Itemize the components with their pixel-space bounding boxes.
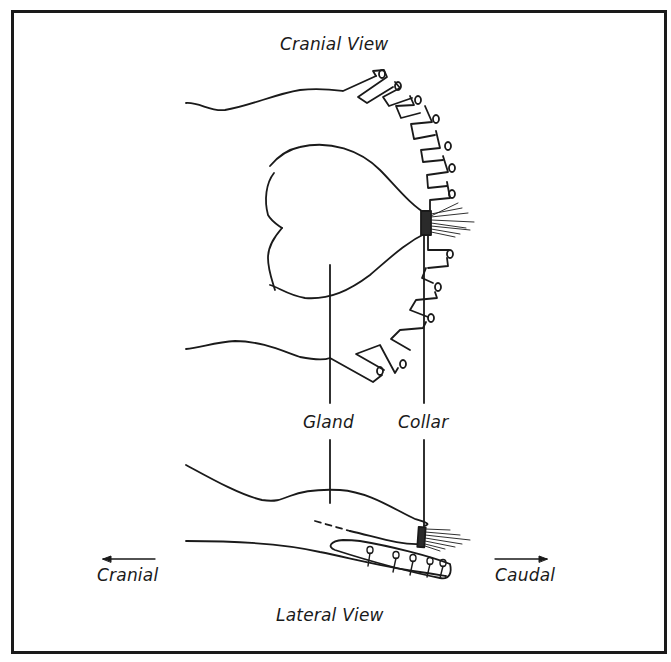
cranial-direction-label: Cranial: [97, 565, 158, 585]
lower-body-outline: [186, 341, 330, 359]
collar-tuft: [421, 203, 474, 237]
lateral-view-label: Lateral View: [276, 605, 384, 625]
gland-edge-dashed: [315, 521, 350, 531]
upper-body-outline: [186, 76, 376, 110]
left-arrow: [103, 556, 155, 562]
right-arrow: [495, 556, 547, 562]
cranial-view-label: Cranial View: [280, 34, 388, 54]
caudal-direction-label: Caudal: [495, 565, 555, 585]
lateral-view-drawing: [186, 465, 470, 578]
teats-upper: [358, 70, 455, 210]
gland-label: Gland: [303, 412, 354, 432]
collar-label: Collar: [398, 412, 448, 432]
gland-outline: [270, 145, 428, 215]
lateral-upper-outline: [186, 465, 427, 526]
anatomy-drawing: [0, 0, 671, 662]
